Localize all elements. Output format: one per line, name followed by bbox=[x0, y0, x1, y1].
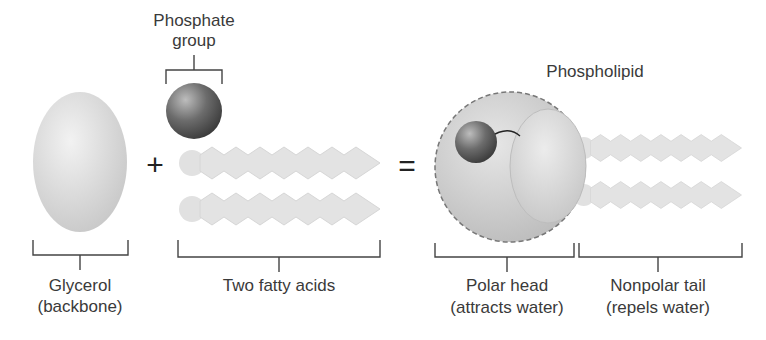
fatty-acids-bracket bbox=[178, 240, 380, 272]
fatty-acid-1 bbox=[179, 147, 380, 179]
glycerol: Glycerol (backbone) bbox=[33, 92, 128, 316]
glycerol-shape bbox=[33, 92, 127, 232]
phosphate-label-2: group bbox=[172, 31, 215, 50]
glycerol-label-2: (backbone) bbox=[37, 297, 122, 316]
glycerol-bracket bbox=[33, 240, 128, 270]
phosphate-bracket bbox=[166, 55, 222, 84]
glycerol-label-1: Glycerol bbox=[49, 276, 111, 295]
phosphate-sphere bbox=[166, 83, 222, 139]
phospholipid-label: Phospholipid bbox=[546, 62, 643, 81]
nonpolar-tail-label-2: (repels water) bbox=[606, 298, 710, 317]
phosphate-in-head bbox=[455, 121, 497, 163]
phosphate-label-1: Phosphate bbox=[153, 11, 234, 30]
fatty-acids-label: Two fatty acids bbox=[223, 276, 335, 295]
phosphate-group: Phosphate group bbox=[153, 11, 234, 139]
tail-2 bbox=[573, 182, 742, 209]
tail-1 bbox=[573, 135, 742, 162]
nonpolar-tail-bracket bbox=[579, 243, 742, 272]
fatty-acid-2 bbox=[179, 193, 380, 225]
polar-head-label-2: (attracts water) bbox=[450, 298, 563, 317]
plus-sign: + bbox=[146, 148, 164, 181]
phospholipid-diagram: Phosphate group Glycerol (backbone) + Tw… bbox=[0, 0, 766, 340]
phospholipid: Phospholipid Polar head (attracts water)… bbox=[435, 62, 742, 317]
polar-head-label-1: Polar head bbox=[466, 276, 548, 295]
glycerol-in-head bbox=[510, 109, 586, 223]
equals-sign: = bbox=[398, 149, 416, 182]
polar-head-bracket bbox=[435, 243, 574, 272]
nonpolar-tail-label-1: Nonpolar tail bbox=[610, 276, 705, 295]
fatty-acids: Two fatty acids bbox=[178, 147, 380, 295]
